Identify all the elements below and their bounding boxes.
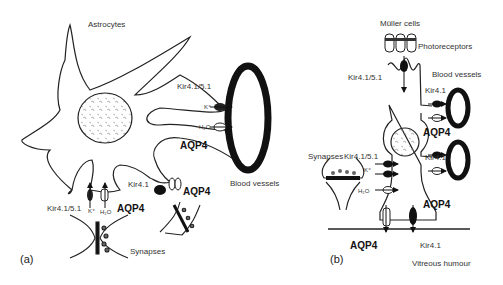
photoreceptors — [385, 34, 416, 52]
synapse-a-mid — [160, 202, 200, 235]
aqp4-label-mid-a: AQP4 — [183, 187, 210, 197]
blood-vessel-b-2 — [448, 142, 468, 178]
synapses-label-a: Synapses — [130, 248, 165, 256]
aqp4-label-endfoot-b: AQP4 — [350, 241, 377, 251]
blood-vessels-label-a: Blood vessels — [230, 180, 279, 188]
kir-channel-top-b — [400, 56, 408, 92]
h2o-label-synapse-b: H₂O — [358, 188, 369, 194]
aqp4-label-vessel-2-b: AQP4 — [423, 200, 450, 210]
aqp4-channel-synapse-a — [101, 183, 108, 208]
aqp4-label-top-a: AQP4 — [180, 141, 207, 151]
kir-label-mid-a: Kir4.1 — [128, 181, 149, 189]
k-label-top-a: K⁺ — [204, 104, 211, 110]
astrocytes-title: Astrocytes — [88, 21, 125, 29]
kir-label-synapse-b: Kir4.1/5.1 — [344, 153, 378, 161]
panel-a-label: (a) — [20, 254, 33, 265]
vitreous-humour-label: Vitreous humour — [412, 260, 471, 268]
astrocyte-cell — [22, 25, 235, 194]
kir-channel-synapse-a — [87, 183, 93, 208]
h2o-label-top-a: H₂O — [199, 124, 210, 130]
synapses-label-b: Synapses — [308, 153, 343, 161]
panel-b-label: (b) — [330, 254, 343, 265]
kir-label-top-b: Kir4.1/5.1 — [348, 74, 382, 82]
kir-label-top-a: Kir4.1/5.1 — [177, 83, 211, 91]
kir-label-vessel-1-b: Kir4.1 — [425, 87, 446, 95]
kir-label-vessel-2-b: Kir4.1 — [425, 154, 446, 162]
blood-vessels-label-b: Blood vessels — [432, 71, 481, 79]
photoreceptors-label: Photoreceptors — [418, 43, 472, 51]
muller-cells-title: Müller cells — [380, 20, 420, 28]
synapse-channels-b — [375, 161, 398, 194]
aqp4-label-vessel-1-b: AQP4 — [423, 128, 450, 138]
k-label-synapse-b: K⁺ — [364, 167, 371, 173]
kir-label-bottom-a: Kir4.1/5.1 — [47, 205, 81, 213]
aqp4-label-bottom-a: AQP4 — [117, 204, 144, 214]
blood-vessel-b-1 — [448, 90, 468, 126]
synapse-a-bottom — [70, 215, 128, 258]
h2o-label-bottom-a: H₂O — [100, 209, 111, 215]
endfoot-channels-b — [383, 205, 417, 232]
kir-label-endfoot-b: Kir4.1 — [420, 242, 441, 250]
blood-vessel-a — [228, 66, 268, 170]
k-label-bottom-a: K⁺ — [88, 208, 95, 214]
synapse-b — [322, 158, 364, 210]
